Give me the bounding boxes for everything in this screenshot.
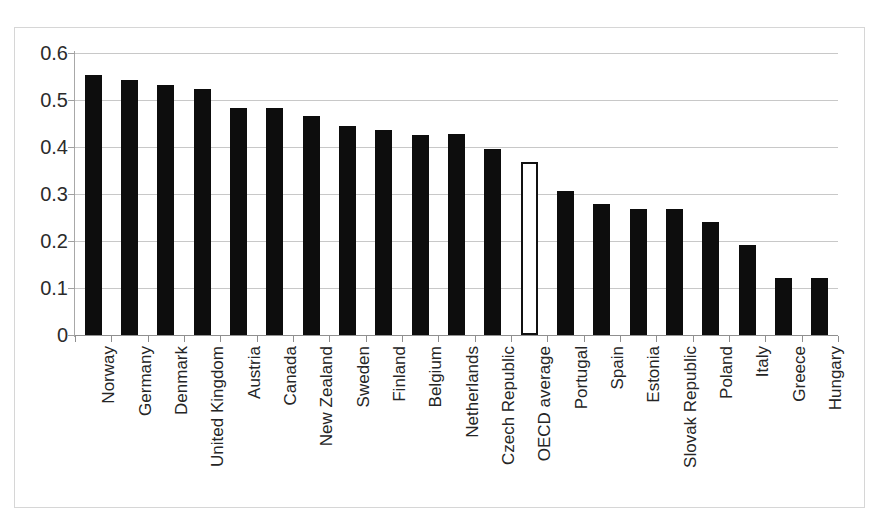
- x-axis-label: Austria: [245, 346, 265, 399]
- x-tick-mark: [729, 336, 730, 342]
- y-tick-mark: [68, 53, 75, 54]
- x-tick-mark: [184, 336, 185, 342]
- x-axis-label: Denmark: [172, 346, 192, 415]
- bar: [521, 162, 538, 335]
- x-tick-mark: [329, 336, 330, 342]
- bar: [739, 245, 756, 335]
- bar: [593, 204, 610, 335]
- x-tick-mark: [511, 336, 512, 342]
- plot-area: [75, 53, 838, 335]
- bar-chart: 0.60.50.40.30.20.10 NorwayGermanyDenmark…: [0, 0, 884, 525]
- bar: [775, 278, 792, 335]
- y-tick-label: 0.5: [0, 89, 68, 112]
- x-tick-mark: [438, 336, 439, 342]
- x-axis-label: Germany: [136, 346, 156, 416]
- bar: [375, 130, 392, 335]
- x-tick-mark: [402, 336, 403, 342]
- bar: [630, 209, 647, 335]
- bar: [85, 75, 102, 335]
- bar: [412, 135, 429, 335]
- x-axis-label: Czech Republic: [499, 346, 519, 465]
- bar: [230, 108, 247, 335]
- bar: [157, 85, 174, 336]
- y-tick-label: 0.6: [0, 42, 68, 65]
- y-tick-label: 0.2: [0, 230, 68, 253]
- y-tick-label: 0.4: [0, 136, 68, 159]
- bar: [557, 191, 574, 335]
- x-tick-mark: [111, 336, 112, 342]
- y-tick-label: 0.1: [0, 277, 68, 300]
- x-axis-label: Finland: [390, 346, 410, 402]
- x-axis-label: OECD average: [535, 346, 555, 461]
- x-axis-label: Estonia: [644, 346, 664, 403]
- x-tick-mark: [257, 336, 258, 342]
- x-axis-label: Belgium: [426, 346, 446, 407]
- x-tick-mark: [366, 336, 367, 342]
- y-tick-mark: [68, 241, 75, 242]
- x-axis-label: Slovak Republic: [681, 346, 701, 468]
- x-tick-mark: [584, 336, 585, 342]
- y-tick-mark: [68, 288, 75, 289]
- x-tick-mark: [693, 336, 694, 342]
- bar: [266, 108, 283, 335]
- x-axis-label: Portugal: [572, 346, 592, 409]
- x-tick-mark: [148, 336, 149, 342]
- bar: [194, 89, 211, 335]
- x-axis-label: New Zealand: [317, 346, 337, 446]
- x-tick-mark: [765, 336, 766, 342]
- y-tick-mark: [68, 100, 75, 101]
- x-axis-label: Hungary: [826, 346, 846, 410]
- x-axis-label: Norway: [99, 346, 119, 404]
- x-axis-label: Canada: [281, 346, 301, 406]
- bar: [121, 80, 138, 335]
- x-tick-mark: [620, 336, 621, 342]
- x-tick-mark: [656, 336, 657, 342]
- y-tick-mark: [68, 147, 75, 148]
- y-tick-mark: [68, 194, 75, 195]
- x-axis-line: [75, 335, 838, 336]
- x-tick-mark: [547, 336, 548, 342]
- x-axis-label: Greece: [790, 346, 810, 402]
- y-tick-label: 0.3: [0, 183, 68, 206]
- x-axis-label: Italy: [753, 346, 773, 377]
- x-axis-label: Poland: [717, 346, 737, 399]
- x-tick-mark: [220, 336, 221, 342]
- y-tick-mark: [68, 335, 75, 336]
- x-tick-mark: [475, 336, 476, 342]
- y-tick-label: 0: [0, 324, 68, 347]
- bar: [666, 209, 683, 335]
- bar: [484, 149, 501, 335]
- x-tick-mark: [838, 336, 839, 342]
- x-axis-label: Netherlands: [463, 346, 483, 438]
- bar: [303, 116, 320, 335]
- x-axis-label: Spain: [608, 346, 628, 389]
- x-axis-label: United Kingdom: [208, 346, 228, 467]
- x-tick-mark: [293, 336, 294, 342]
- x-tick-mark: [75, 336, 76, 342]
- bar: [448, 134, 465, 335]
- bar: [811, 278, 828, 335]
- x-tick-mark: [802, 336, 803, 342]
- x-axis-label: Sweden: [354, 346, 374, 407]
- bar: [702, 222, 719, 335]
- bar: [339, 126, 356, 335]
